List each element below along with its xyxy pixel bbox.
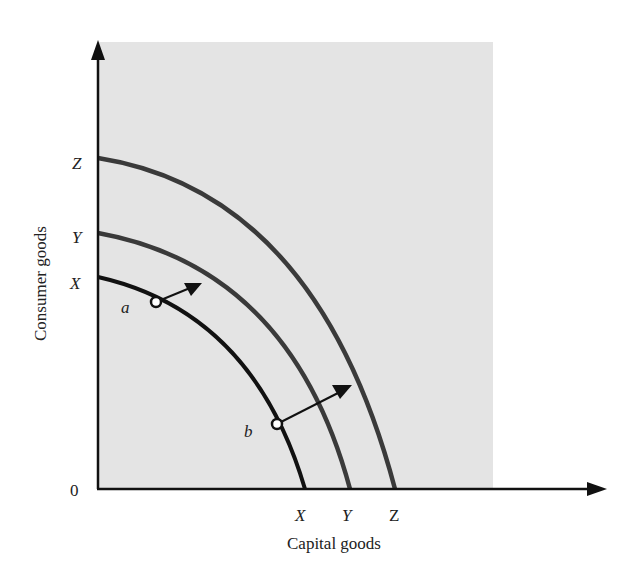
ppf-diagram: 0 Z Y X X Y Z a b Capital goods Consumer… [0,0,635,578]
y-intercept-label-x: X [69,274,81,293]
y-intercept-label-y: Y [72,228,83,247]
x-axis-arrow-icon [587,482,607,496]
point-b [272,419,282,429]
point-a [151,297,161,307]
x-axis-label: Capital goods [287,534,381,553]
origin-label: 0 [70,481,79,500]
x-intercept-label-z: Z [389,506,399,525]
plot-panel [98,42,493,489]
y-intercept-label-z: Z [72,154,82,173]
x-intercept-label-x: X [294,506,306,525]
x-intercept-label-y: Y [342,506,353,525]
point-a-label: a [121,298,130,317]
point-b-label: b [244,422,253,441]
y-axis-label: Consumer goods [31,226,50,341]
